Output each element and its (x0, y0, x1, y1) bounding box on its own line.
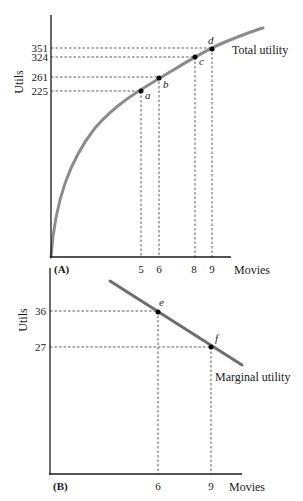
point-label-a: a (145, 89, 151, 101)
point-e (156, 310, 161, 315)
x-tick-6: 6 (156, 263, 162, 275)
y-tick-225: 225 (32, 85, 49, 97)
x-tick-5: 5 (138, 263, 144, 275)
panel-a-label: (A) (54, 263, 70, 276)
panel-a-guides (51, 48, 212, 257)
panel-b-guides (50, 311, 211, 474)
x-tick-8: 8 (191, 263, 197, 275)
x-tick-6-b: 6 (155, 480, 161, 492)
panel-b: e f 36 27 6 9 Movies (B) Utils Marginal … (16, 268, 290, 494)
panel-b-x-label: Movies (229, 480, 265, 494)
utility-charts: a b c d 351 324 261 225 5 6 8 9 Movies (… (0, 0, 303, 501)
point-b (157, 76, 162, 81)
panel-a-x-label: Movies (234, 263, 270, 277)
marginal-utility-label: Marginal utility (215, 370, 290, 384)
point-c (193, 55, 198, 60)
marginal-utility-line (110, 281, 242, 365)
total-utility-label: Total utility (232, 43, 288, 57)
point-label-d: d (208, 34, 214, 46)
x-tick-9-b: 9 (208, 480, 214, 492)
y-tick-27: 27 (35, 341, 47, 353)
y-tick-261: 261 (32, 71, 49, 83)
y-tick-36: 36 (35, 305, 47, 317)
panel-b-label: (B) (53, 480, 68, 493)
x-tick-9: 9 (209, 263, 215, 275)
point-a (139, 89, 144, 94)
point-d (210, 47, 215, 52)
point-label-b: b (163, 78, 169, 90)
point-label-c: c (199, 55, 204, 67)
panel-a: a b c d 351 324 261 225 5 6 8 9 Movies (… (12, 15, 288, 277)
point-label-e: e (159, 296, 164, 308)
total-utility-curve (51, 28, 263, 257)
panel-a-y-label: Utils (12, 70, 26, 94)
panel-b-y-label: Utils (16, 308, 30, 332)
y-tick-324: 324 (32, 51, 49, 63)
point-label-f: f (215, 332, 220, 344)
point-f (209, 345, 214, 350)
